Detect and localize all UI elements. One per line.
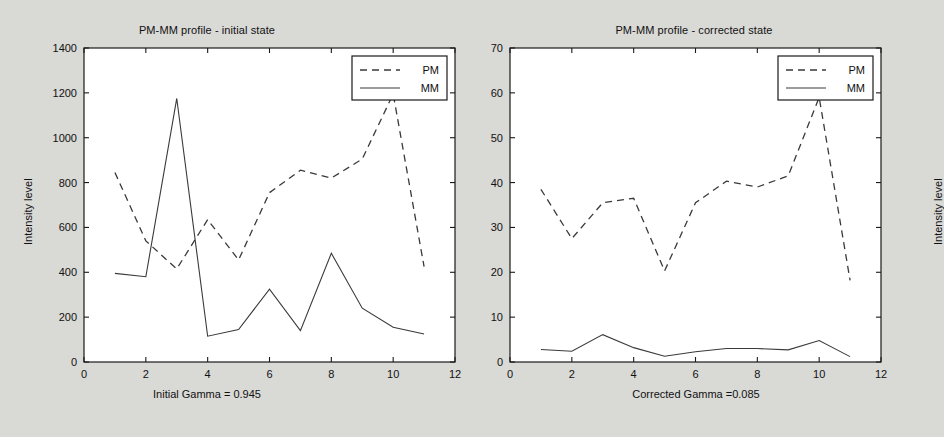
x-tick-label: 12 [875, 368, 887, 380]
x-tick-label: 8 [328, 368, 334, 380]
chart-caption-initial: Initial Gamma = 0.945 [0, 388, 438, 400]
x-tick-label: 4 [631, 368, 637, 380]
plot-area-initial: 0200400600800100012001400024681012PMMM [0, 0, 462, 437]
x-tick-label: 0 [81, 368, 87, 380]
x-tick-label: 2 [143, 368, 149, 380]
y-tick-label: 0 [71, 356, 77, 368]
y-tick-label: 1200 [53, 87, 77, 99]
chart-panel-corrected: PM-MM profile - corrected state Intensit… [455, 0, 917, 437]
y-axis-label-corrected: Intensity level [932, 178, 944, 245]
y-tick-label: 800 [59, 177, 77, 189]
plot-area-corrected: 010203040506070024681012PMMM [455, 0, 917, 437]
y-tick-label: 400 [59, 266, 77, 278]
y-tick-label: 50 [491, 132, 503, 144]
x-tick-label: 6 [692, 368, 698, 380]
legend-label-mm: MM [421, 82, 439, 94]
y-tick-label: 60 [491, 87, 503, 99]
x-tick-label: 10 [387, 368, 399, 380]
legend-label-pm: PM [849, 64, 866, 76]
y-tick-label: 600 [59, 221, 77, 233]
y-tick-label: 10 [491, 311, 503, 323]
legend-label-pm: PM [423, 64, 440, 76]
x-tick-label: 4 [205, 368, 211, 380]
y-tick-label: 0 [497, 356, 503, 368]
x-tick-label: 6 [266, 368, 272, 380]
y-tick-label: 70 [491, 42, 503, 54]
y-tick-label: 1400 [53, 42, 77, 54]
x-tick-label: 8 [754, 368, 760, 380]
y-tick-label: 1000 [53, 132, 77, 144]
y-tick-label: 200 [59, 311, 77, 323]
x-tick-label: 10 [813, 368, 825, 380]
y-tick-label: 20 [491, 266, 503, 278]
x-tick-label: 2 [569, 368, 575, 380]
y-tick-label: 30 [491, 221, 503, 233]
y-tick-label: 40 [491, 177, 503, 189]
chart-caption-corrected: Corrected Gamma =0.085 [465, 388, 927, 400]
legend-label-mm: MM [847, 82, 865, 94]
x-tick-label: 0 [507, 368, 513, 380]
chart-panel-initial: PM-MM profile - initial state Intensity … [0, 0, 462, 437]
